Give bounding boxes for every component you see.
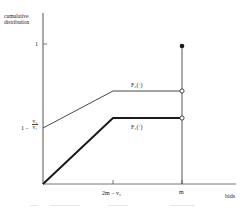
cdf-chart — [0, 0, 250, 211]
y-axis-label: cumulative distribution — [4, 13, 44, 25]
y-tick-frac-denominator: v₁ — [32, 125, 38, 130]
series-f1-line — [43, 118, 180, 184]
series-label-f1: F₁(·) — [131, 124, 142, 130]
x-tick-label-kink: 2m − v₂ — [102, 190, 121, 196]
series-f2-line — [43, 91, 180, 128]
y-tick-label-fraction: v₂ v₁ — [32, 119, 38, 130]
x-axis-label: bids — [225, 193, 235, 199]
series-label-f2: F₂(·) — [131, 82, 142, 88]
y-tick-label-one: 1 — [35, 41, 38, 47]
open-circle-marker-f2 — [180, 89, 184, 93]
filled-dot-marker — [180, 44, 185, 49]
x-tick-label-m: m — [179, 189, 184, 195]
caption-fragment — [30, 205, 220, 207]
y-axis-label-line2: distribution — [4, 19, 44, 25]
open-circle-marker-f1 — [180, 116, 184, 120]
y-tick-label-frac-prefix: 1 − — [21, 125, 29, 131]
